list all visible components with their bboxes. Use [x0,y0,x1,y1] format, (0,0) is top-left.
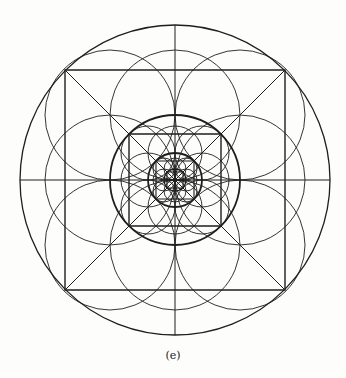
construction-lines [20,25,330,335]
geometric-construction-diagram [0,0,346,345]
figure-caption: (e) [0,349,346,362]
